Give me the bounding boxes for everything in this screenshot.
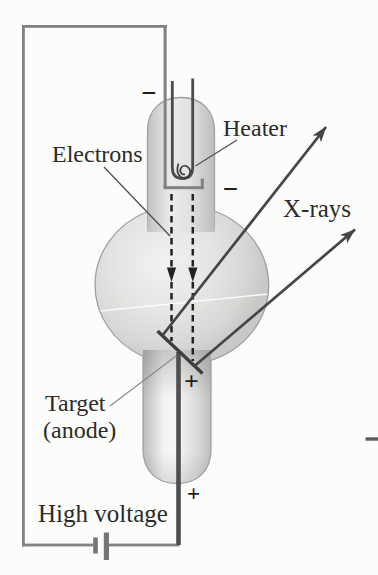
wire-top	[22, 25, 167, 28]
xray-tube-figure: Electrons Heater X-rays Target (anode) H…	[0, 0, 378, 575]
xrays-label: X-rays	[283, 195, 351, 222]
glass-neck	[147, 96, 215, 232]
cathode-flange	[164, 186, 204, 189]
right-edge-dash	[366, 437, 378, 440]
anode-rod	[176, 352, 181, 545]
cathode-minus-side: −	[223, 174, 238, 204]
wire-bottom-left	[22, 544, 93, 547]
electrons-label: Electrons	[52, 141, 143, 167]
battery-plate-long	[104, 533, 109, 561]
battery-plate-short	[93, 538, 98, 554]
anode-plus-sign: +	[187, 481, 200, 506]
target-plus-sign: +	[184, 367, 199, 396]
high-voltage-label: High voltage	[38, 500, 168, 527]
cathode-minus-top: −	[141, 78, 156, 108]
xray-tube-diagram: Electrons Heater X-rays Target (anode) H…	[0, 0, 378, 575]
wire-left	[22, 25, 25, 547]
cathode-flange-tick	[201, 179, 204, 190]
target-label-line1: Target	[45, 390, 106, 416]
target-label-line2: (anode)	[43, 417, 116, 443]
wire-cathode-drop	[164, 25, 167, 188]
wire-bottom-right	[109, 544, 180, 547]
heater-label: Heater	[223, 115, 287, 141]
